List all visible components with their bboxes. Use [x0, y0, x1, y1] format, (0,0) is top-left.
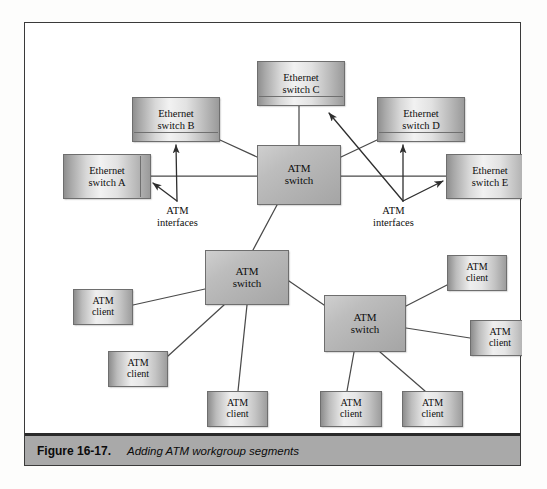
- node-atm-client-bottom-1[interactable]: ATMclient: [207, 391, 268, 427]
- node-atm-client-left[interactable]: ATMclient: [73, 289, 133, 325]
- node-label: Ethernetswitch B: [156, 108, 195, 131]
- node-label: ATMswitch: [232, 266, 263, 290]
- annotation-atm-interfaces-right: ATM interfaces: [373, 205, 414, 229]
- arrow-ifLeft-ethA: [153, 183, 177, 201]
- node-label: ATMclient: [488, 327, 512, 349]
- node-atm-switch-core[interactable]: ATMswitch: [257, 145, 341, 205]
- node-label: ATMswitch: [350, 312, 381, 336]
- figure-caption-bar: Figure 16-17. Adding ATM workgroup segme…: [25, 433, 520, 465]
- node-atm-client-right-bottom[interactable]: ATMclient: [470, 320, 522, 356]
- page-canvas: Ethernetswitch C Ethernetswitch B Ethern…: [0, 0, 547, 489]
- node-ethernet-switch-b[interactable]: Ethernetswitch B: [132, 97, 220, 142]
- link-atmRight-cliRbot: [406, 328, 470, 338]
- link-atmMid-cliLeft: [133, 289, 205, 305]
- node-atm-switch-middle[interactable]: ATMswitch: [205, 250, 289, 305]
- node-label: ATMswitch: [284, 163, 315, 187]
- node-label: Ethernetswitch E: [471, 165, 509, 188]
- link-core-ethB: [220, 140, 257, 157]
- link-atmRight-cliRtop: [406, 285, 447, 306]
- arrow-ifRight-ethE: [403, 181, 443, 201]
- node-ethernet-switch-a[interactable]: Ethernetswitch A: [63, 154, 151, 199]
- annotation-line-2: interfaces: [157, 217, 198, 229]
- link-atmRight-cliBot3: [380, 352, 425, 391]
- link-atmMid-cliBot1: [238, 305, 247, 391]
- node-atm-client-bottom-2[interactable]: ATMclient: [320, 391, 382, 427]
- node-atm-client-right-top[interactable]: ATMclient: [447, 255, 507, 291]
- node-label: ATMclient: [91, 296, 115, 318]
- network-diagram: Ethernetswitch C Ethernetswitch B Ethern…: [25, 23, 522, 433]
- link-atmMid-atmRight: [289, 281, 324, 305]
- annotation-atm-interfaces-left: ATM interfaces: [157, 205, 198, 229]
- node-atm-switch-right[interactable]: ATMswitch: [324, 295, 406, 352]
- arrow-ifLeft-ethB: [176, 145, 177, 201]
- node-label: Ethernetswitch A: [87, 165, 126, 188]
- annotation-line-1: ATM: [157, 205, 198, 217]
- node-atm-client-lower-left[interactable]: ATMclient: [108, 351, 168, 387]
- node-label: ATMclient: [126, 358, 150, 380]
- annotation-line-1: ATM: [373, 205, 414, 217]
- node-label: Ethernetswitch D: [401, 108, 441, 131]
- node-ethernet-switch-c[interactable]: Ethernetswitch C: [257, 61, 345, 106]
- node-ethernet-switch-e[interactable]: Ethernetswitch E: [446, 154, 522, 199]
- node-label: ATMclient: [339, 398, 363, 420]
- node-atm-client-bottom-3[interactable]: ATMclient: [402, 391, 463, 427]
- figure-caption-text: Adding ATM workgroup segments: [127, 445, 299, 457]
- link-atmRight-cliBot2: [347, 352, 354, 391]
- figure-frame: Ethernetswitch C Ethernetswitch B Ethern…: [24, 22, 521, 466]
- link-atmMid-cliLower: [168, 305, 224, 356]
- node-label: Ethernetswitch C: [281, 72, 320, 95]
- node-ethernet-switch-d[interactable]: Ethernetswitch D: [377, 97, 465, 142]
- link-core-atmMid: [253, 205, 277, 250]
- annotation-line-2: interfaces: [373, 217, 414, 229]
- node-label: ATMclient: [225, 398, 249, 420]
- figure-number: Figure 16-17.: [37, 444, 111, 458]
- node-label: ATMclient: [420, 398, 444, 420]
- node-label: ATMclient: [465, 262, 489, 284]
